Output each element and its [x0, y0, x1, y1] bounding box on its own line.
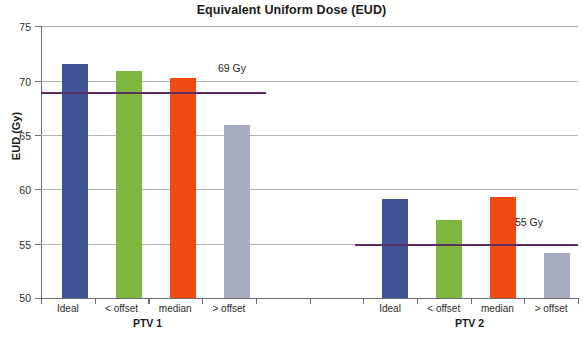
x-label-ptv2-ideal: Ideal	[363, 303, 417, 314]
reference-label-55gy: 55 Gy	[515, 216, 543, 228]
reference-label-69gy: 69 Gy	[218, 62, 246, 74]
bar-ptv1-greater-offset	[224, 125, 250, 298]
x-label-ptv1-less-offset: < offset	[95, 303, 149, 314]
x-label-ptv1-ideal: Ideal	[41, 303, 95, 314]
bar-ptv1-median	[170, 78, 196, 298]
y-tick-label-75: 75	[0, 21, 31, 33]
reference-line-55gy	[355, 244, 578, 246]
bar-ptv2-median	[490, 197, 516, 298]
bar-ptv2-greater-offset	[544, 253, 570, 299]
x-label-ptv2-greater-offset: > offset	[524, 303, 578, 314]
y-tick-label-70: 70	[0, 76, 31, 88]
y-tick-label-60: 60	[0, 184, 31, 196]
x-label-ptv2-median: median	[471, 303, 525, 314]
x-tick-5	[310, 298, 311, 304]
chart-title: Equivalent Uniform Dose (EUD)	[0, 3, 583, 17]
x-label-ptv1-greater-offset: > offset	[202, 303, 256, 314]
bar-ptv2-less-offset	[436, 220, 462, 298]
eud-bar-chart: Equivalent Uniform Dose (EUD) EUD (Gy) 7…	[0, 0, 583, 338]
x-label-ptv1-median: median	[148, 303, 202, 314]
plot-area	[41, 27, 578, 298]
y-tick-label-50: 50	[0, 292, 31, 304]
bar-ptv1-ideal	[62, 64, 88, 298]
bar-ptv1-less-offset	[116, 71, 142, 298]
reference-line-69gy	[41, 92, 266, 94]
y-tick-label-65: 65	[0, 130, 31, 142]
y-tick-label-55: 55	[0, 239, 31, 251]
group-label-ptv1: PTV 1	[95, 317, 200, 329]
x-tick-4	[256, 298, 257, 304]
bar-ptv2-ideal	[382, 199, 408, 298]
x-label-ptv2-less-offset: < offset	[417, 303, 471, 314]
group-label-ptv2: PTV 2	[417, 317, 522, 329]
